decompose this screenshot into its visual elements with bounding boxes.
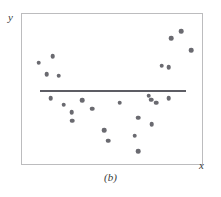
data-point (149, 122, 154, 127)
data-point (102, 128, 107, 133)
data-point (159, 63, 164, 68)
data-point (132, 133, 137, 138)
data-point (56, 73, 61, 78)
data-point (179, 29, 184, 34)
data-point (169, 36, 174, 41)
figure-caption: (b) (0, 172, 221, 183)
fitted-regression-line (40, 90, 186, 92)
data-point (36, 60, 41, 65)
data-point (136, 115, 141, 120)
data-point (117, 100, 122, 105)
data-point (70, 118, 75, 123)
data-point (166, 65, 171, 70)
data-point (154, 100, 159, 105)
y-axis-label: y (8, 12, 13, 23)
data-point (146, 93, 151, 98)
scatter-plot-figure: y x (b) (0, 0, 221, 197)
plot-frame (21, 13, 203, 165)
data-point (69, 110, 74, 115)
data-point (106, 138, 111, 143)
plot-area (22, 14, 202, 164)
data-point (49, 96, 54, 101)
data-point (166, 96, 171, 101)
data-point (189, 48, 194, 53)
data-point (80, 98, 85, 103)
data-point (50, 54, 55, 59)
data-point (90, 106, 95, 111)
data-point (136, 149, 141, 154)
x-axis-label: x (199, 160, 204, 171)
data-point (44, 72, 49, 77)
data-point (61, 102, 66, 107)
